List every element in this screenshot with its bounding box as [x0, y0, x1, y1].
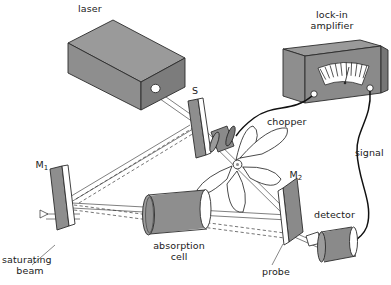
label-mirror-2-letter: M — [289, 169, 297, 180]
lockin-meter — [318, 62, 369, 85]
absorption-cell — [143, 190, 212, 236]
label-laser: laser — [78, 3, 102, 14]
chopper-motor — [208, 125, 237, 153]
mirror-1 — [50, 165, 75, 230]
laser-aperture — [151, 84, 160, 92]
label-absorption-cell-line1: absorption — [138, 240, 220, 251]
label-beamsplitter: S — [192, 85, 198, 96]
leader-probe — [272, 244, 283, 265]
label-lockin-amplifier-line1: lock-in — [295, 9, 369, 20]
beamsplitter-plate — [188, 98, 211, 158]
lockin-front-face — [283, 49, 305, 103]
lockin-signal-terminal — [367, 85, 373, 91]
label-absorption-cell-line2: cell — [138, 251, 220, 262]
label-mirror-2: M2 — [277, 158, 302, 193]
lockin-right-face — [381, 46, 388, 93]
label-probe: probe — [262, 266, 290, 277]
label-signal: signal — [355, 147, 384, 158]
label-saturating-beam-line1: saturating — [2, 254, 52, 265]
meter-pivot — [344, 82, 347, 85]
label-saturating-beam-line2: beam — [2, 265, 58, 276]
label-mirror-1-letter: M — [35, 159, 43, 170]
chopper-hub-center — [236, 163, 239, 166]
signal-cable — [338, 91, 370, 247]
absorption-cell-near-inner — [146, 197, 154, 233]
detector-front-face — [318, 232, 326, 262]
s-to-m1-ray-a — [68, 125, 190, 198]
chopper-blade-4 — [227, 171, 245, 212]
label-lockin-amplifier-line2: amplifier — [295, 20, 369, 31]
label-mirror-2-subscript: 2 — [298, 174, 303, 182]
chopper-blade-3 — [243, 167, 281, 185]
label-chopper: chopper — [267, 116, 307, 127]
lockin-amplifier-body — [283, 40, 388, 103]
laser-body — [68, 20, 185, 110]
s-to-m1-ray-b — [71, 129, 193, 202]
absorption-cell-far-window — [200, 190, 211, 229]
detector — [306, 227, 358, 262]
figure-canvas: laser S lock-in amplifier chopper signal… — [0, 0, 391, 285]
label-detector: detector — [314, 209, 355, 220]
detector-back-face — [350, 227, 358, 256]
label-mirror-1: M1 — [23, 148, 48, 183]
label-mirror-1-subscript: 1 — [44, 164, 49, 172]
absorption-cell-body — [147, 190, 207, 234]
